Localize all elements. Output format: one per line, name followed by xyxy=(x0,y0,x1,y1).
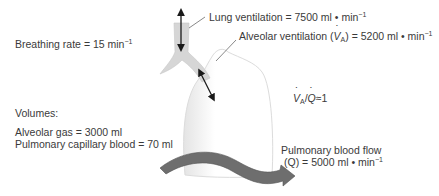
breathing-rate-label: Breathing rate = 15 min−1 xyxy=(15,38,132,50)
lung-ventilation-leader xyxy=(189,17,205,28)
pulmonary-blood-flow-label: Pulmonary blood flow xyxy=(281,144,381,156)
lung-ventilation-label: Lung ventilation = 7500 ml • min−1 xyxy=(209,11,366,23)
pulmonary-capillary-blood-volume: Pulmonary capillary blood = 70 ml xyxy=(15,138,173,150)
trachea-shape xyxy=(160,23,210,82)
alveolar-ventilation-label: Alveolar ventilation (VA) = 5200 ml • mi… xyxy=(239,30,433,42)
alveolar-gas-volume: Alveolar gas = 3000 ml xyxy=(15,126,122,138)
pulmonary-blood-flow-value: (Q) = 5000 ml • min−1 xyxy=(284,156,383,168)
ventilation-perfusion-ratio: VA/Q≈1 xyxy=(293,92,327,104)
volumes-title: Volumes: xyxy=(15,107,58,119)
